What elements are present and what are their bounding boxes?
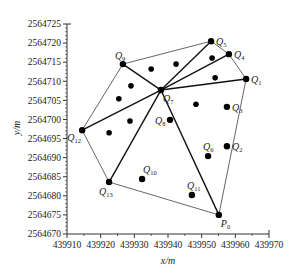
label-subscript: 1 [258,79,261,86]
label-letter: P [220,218,227,229]
x-tick-label: 439910 [53,240,82,250]
label-q10: Q10 [143,164,157,176]
label-subscript: 5 [223,41,226,48]
x-axis-title: x/m [160,255,175,266]
x-tick-label: 439920 [86,240,115,250]
x-tick-label: 439970 [255,240,284,250]
y-tick-label: 2564675 [28,210,62,220]
partition-edge [161,41,211,90]
label-subscript: 9 [122,55,125,62]
point-unlabeled [127,118,133,124]
label-subscript: 7 [170,98,174,105]
label-q1: Q1 [251,74,261,86]
y-tick-label: 2564705 [28,96,62,106]
y-tick-label: 2564715 [28,57,62,67]
label-q8: Q8 [155,115,165,127]
y-tick-label: 2564695 [28,134,62,144]
label-p0: P0 [220,218,230,230]
label-q9: Q9 [115,50,125,62]
boundary-edge [109,182,219,215]
x-tick-label: 439950 [187,240,216,250]
label-subscript: 13 [106,191,113,198]
axes: 4399104399204399304399404399504399604399… [28,19,284,250]
scatter-chart: 4399104399204399304399404399504399604399… [0,0,302,274]
label-subscript: 8 [162,120,165,127]
label-subscript: 6 [210,146,214,153]
y-axis-title: y/m [11,121,22,136]
y-tick-label: 2564685 [28,172,62,182]
label-q12: Q12 [67,132,81,144]
point-q2 [224,143,230,149]
point-q12 [79,127,85,133]
point-q5 [208,38,214,44]
point-unlabeled [128,83,134,89]
point-q10 [139,176,145,182]
point-unlabeled [116,96,122,102]
point-unlabeled [212,75,218,81]
point-unlabeled [193,101,199,107]
label-q6: Q6 [203,141,214,153]
point-q8 [167,117,173,123]
point-q1 [243,76,249,82]
label-subscript: 12 [74,137,81,144]
thin-edges [82,41,246,215]
x-tick-label: 439930 [120,240,149,250]
point-q13 [106,179,112,185]
label-subscript: 0 [227,223,230,230]
point-unlabeled [106,130,112,136]
point-q11 [189,192,195,198]
y-tick-label: 2564670 [28,229,62,239]
thick-edges [82,41,246,215]
y-tick-label: 2564690 [28,153,62,163]
label-subscript: 3 [239,107,242,114]
label-q7: Q7 [163,93,174,105]
label-subscript: 4 [241,54,245,61]
partition-edge [161,54,229,90]
point-q6 [205,153,211,159]
point-q3 [224,104,230,110]
label-subscript: 11 [194,185,200,192]
label-subscript: 2 [239,146,242,153]
point-unlabeled [173,61,179,67]
y-tick-label: 2564700 [28,115,62,125]
label-q13: Q13 [99,186,113,198]
label-q2: Q2 [232,141,242,153]
x-tick-label: 439960 [221,240,250,250]
label-subscript: 10 [150,169,157,176]
point-unlabeled [209,55,215,61]
point-unlabeled [148,66,154,72]
y-tick-label: 2564710 [28,77,62,87]
label-q5: Q5 [216,36,226,48]
point-labels: P0Q1Q2Q3Q4Q5Q6Q7Q8Q9Q10Q11Q12Q13 [67,36,261,230]
x-tick-label: 439940 [154,240,183,250]
label-q11: Q11 [187,180,201,192]
point-q4 [226,51,232,57]
y-tick-label: 2564720 [28,38,62,48]
label-q4: Q4 [234,49,245,61]
boundary-edge [123,41,211,64]
y-tick-label: 2564725 [28,19,62,29]
y-tick-label: 2564680 [28,191,62,201]
partition-edge [161,79,246,90]
boundary-edge [82,130,109,182]
